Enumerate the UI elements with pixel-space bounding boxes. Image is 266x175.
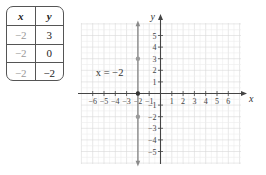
x-tick-label: 6 (226, 97, 230, 106)
x-tick-label: −3 (122, 97, 131, 106)
line-equation-label: x = −2 (96, 67, 124, 78)
x-tick-label: 1 (170, 97, 174, 106)
y-tick-label: −5 (148, 148, 157, 157)
y-axis-arrow-icon (158, 14, 163, 20)
data-point (136, 115, 140, 119)
y-tick-label: 4 (153, 43, 157, 52)
x-tick-label: 3 (192, 97, 196, 106)
y-tick-label: 3 (153, 55, 157, 64)
x-tick-label: −6 (88, 97, 97, 106)
y-tick-label: 1 (153, 78, 157, 87)
x-tick-label: −4 (111, 97, 120, 106)
data-point (136, 91, 140, 95)
x-tick-label: 2 (181, 97, 185, 106)
y-axis-label: y (150, 11, 156, 22)
x-tick-label: 5 (215, 97, 219, 106)
y-tick-label: 2 (153, 66, 157, 75)
x-axis-arrow-icon (241, 91, 247, 96)
coordinate-plane: xy−6−5−4−3−2−1123456−5−4−3−2−112345x = −… (0, 0, 266, 175)
y-tick-label: −1 (148, 101, 157, 110)
line-arrow-up-icon (136, 20, 141, 26)
x-tick-label: 4 (204, 97, 208, 106)
y-tick-label: −2 (148, 113, 157, 122)
y-tick-label: −4 (148, 136, 157, 145)
data-point (136, 57, 140, 61)
y-tick-label: 5 (153, 32, 157, 41)
line-arrow-down-icon (136, 161, 141, 167)
x-axis-label: x (248, 93, 254, 104)
x-tick-label: −5 (100, 97, 109, 106)
y-tick-label: −3 (148, 124, 157, 133)
